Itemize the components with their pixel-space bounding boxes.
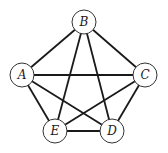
graph-diagram: BACED (0, 0, 168, 153)
node-label: D (106, 124, 117, 138)
node-e: E (43, 119, 67, 143)
node-d: D (100, 119, 124, 143)
node-label: C (140, 68, 149, 82)
node-label: E (50, 124, 60, 138)
nodes-group: BACED (10, 10, 157, 143)
node-b: B (72, 10, 96, 34)
node-label: A (17, 68, 27, 82)
node-label: B (79, 15, 89, 29)
edges-group (22, 22, 145, 131)
edge-b-d (84, 22, 112, 131)
node-a: A (10, 63, 34, 87)
node-c: C (133, 63, 157, 87)
